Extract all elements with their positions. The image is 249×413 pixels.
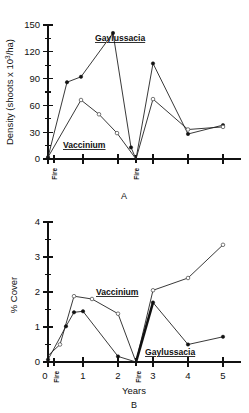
panel-b-ytick-2: 2 [35,286,40,297]
svg-text:Density (shoots x 103/ha): Density (shoots x 103/ha) [4,39,16,145]
panel-b-fire-text-1: Fire [53,371,60,383]
panel-b-fire-label-2: Fire [135,371,142,383]
panel-a-label-gaylussacia: Gaylussacia [95,33,145,43]
panel-a-y-title-tail: /ha) [4,39,15,55]
panel-a-fire-text-1: Fire [51,168,58,180]
panel-b-xtick-0: 0 [42,370,47,381]
panel-a-y-tick-labels: 0 30 60 90 120 150 [24,19,40,164]
panel-b-vaccinium-markers [58,243,225,346]
panel-b-ytick-4: 4 [35,216,40,227]
panel-b-label: B [131,400,137,410]
panel-b-y-axis-title: % Cover [8,277,19,313]
panel-b-y-title-text: % Cover [8,277,19,313]
panel-a-ytick-60: 60 [29,100,40,111]
panel-b-fire-text-2: Fire [135,371,142,383]
panel-b: 0 1 2 3 4 % Cover [8,216,241,410]
panel-a-fire-text-2: Fire [133,168,140,180]
figure-svg: 0 30 60 90 120 150 Density (shoots x 103… [0,0,249,413]
panel-b-x-tick-labels: 0 1 2 3 4 5 [42,370,225,381]
panel-b-y-tick-labels: 0 1 2 3 4 [35,216,40,367]
panel-b-xtick-4: 4 [185,370,190,381]
panel-b-fire-label-1: Fire [53,371,60,383]
panel-b-xtick-3: 3 [150,370,155,381]
panel-a-ytick-30: 30 [29,127,40,138]
panel-a-fire-label-1: Fire [51,168,58,180]
panel-b-label-gaylussacia: Gaylussacia [145,347,195,357]
panel-b-xtick-1: 1 [80,370,85,381]
panel-b-ytick-3: 3 [35,251,40,262]
panel-b-xtick-5: 5 [220,370,225,381]
figure-container: 0 30 60 90 120 150 Density (shoots x 103… [0,0,249,413]
panel-b-ytick-1: 1 [35,321,40,332]
panel-a-fire-label-2: Fire [133,168,140,180]
panel-a: 0 30 60 90 120 150 Density (shoots x 103… [4,19,242,201]
panel-b-xtick-2: 2 [115,370,120,381]
panel-b-x-axis-title: Years [122,385,146,396]
panel-b-label-vaccinium: Vaccinium [96,287,139,297]
panel-b-gaylussacia-line-left [48,311,136,362]
panel-b-gaylussacia-line-right [153,303,223,345]
panel-b-ytick-0: 0 [35,356,40,367]
panel-b-vaccinium-line [48,245,223,362]
panel-a-ytick-150: 150 [24,19,40,30]
panel-a-vaccinium-line [48,99,223,159]
panel-a-y-title-main: Density (shoots x 10 [4,59,15,145]
panel-b-gaylussacia-markers [46,301,224,362]
panel-a-ytick-120: 120 [24,46,40,57]
panel-a-ytick-0: 0 [35,153,40,164]
panel-a-ytick-90: 90 [29,73,40,84]
panel-a-label: A [121,191,127,201]
panel-a-label-vaccinium: Vaccinium [63,140,106,150]
panel-a-y-axis-title: Density (shoots x 103/ha) [4,39,16,145]
